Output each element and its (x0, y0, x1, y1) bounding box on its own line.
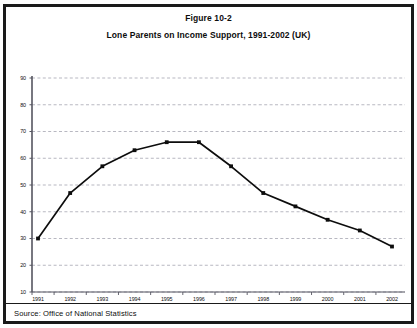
gridlines-group (30, 78, 406, 292)
data-markers-group (36, 140, 394, 248)
data-line-series (38, 142, 392, 246)
y-axis-tick-label: 70 (12, 128, 26, 134)
x-axis-tick-label: 1996 (184, 296, 214, 302)
line-chart-svg (0, 0, 417, 328)
data-point-marker (294, 205, 298, 209)
data-point-marker (229, 164, 233, 168)
y-axis-tick-label: 10 (12, 289, 26, 295)
axis-group (32, 76, 405, 292)
x-axis-tick-label: 1992 (55, 296, 85, 302)
y-axis-tick-label: 80 (12, 102, 26, 108)
x-axis-tick-label: 1994 (120, 296, 150, 302)
x-axis-tick-label: 1993 (87, 296, 117, 302)
y-axis-tick-label: 50 (12, 182, 26, 188)
y-axis-tick-label: 60 (12, 155, 26, 161)
data-point-marker (36, 237, 40, 241)
source-caption: Source: Office of National Statistics (14, 309, 137, 318)
source-divider (6, 303, 411, 304)
y-axis-tick-label: 40 (12, 209, 26, 215)
data-point-marker (390, 245, 394, 249)
data-point-marker (358, 229, 362, 233)
x-axis-tick-label: 2000 (313, 296, 343, 302)
figure-container: Figure 10-2 Lone Parents on Income Suppo… (0, 0, 417, 328)
x-axis-tick-label: 1991 (23, 296, 53, 302)
data-point-marker (326, 218, 330, 222)
y-axis-tick-label: 30 (12, 235, 26, 241)
x-axis-tick-label: 2002 (377, 296, 407, 302)
x-axis-tick-label: 1997 (216, 296, 246, 302)
data-point-marker (133, 148, 137, 152)
data-point-marker (165, 140, 169, 144)
data-point-marker (261, 191, 265, 195)
x-axis-tick-label: 1998 (248, 296, 278, 302)
data-point-marker (68, 191, 72, 195)
y-axis-tick-label: 20 (12, 262, 26, 268)
x-axis-tick-label: 2001 (345, 296, 375, 302)
data-point-marker (100, 164, 104, 168)
chart-plot-area: 908070605040302010 199119921993199419951… (0, 0, 417, 328)
data-point-marker (197, 140, 201, 144)
x-axis-tick-label: 1999 (280, 296, 310, 302)
x-axis-tick-label: 1995 (152, 296, 182, 302)
y-axis-tick-label: 90 (12, 75, 26, 81)
